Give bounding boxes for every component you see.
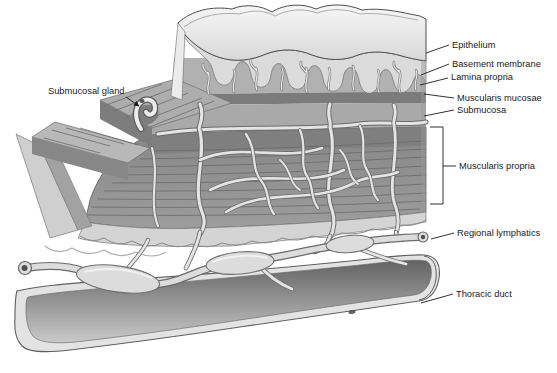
serosa-bumps: [45, 246, 166, 256]
anatomy-illustration: Submucosal gland Epithelium Basement mem…: [0, 0, 557, 373]
leader-epithelium: [426, 45, 449, 53]
label-thoracic-duct: Thoracic duct: [456, 289, 512, 299]
label-lamina-propria: Lamina propria: [451, 72, 514, 82]
label-regional-lymphatics: Regional lymphatics: [457, 228, 541, 238]
leader-muscularis-mucosae: [424, 94, 454, 98]
label-submucosal-gland: Submucosal gland: [48, 86, 125, 96]
leader-submucosa: [424, 110, 454, 116]
label-basement-membrane: Basement membrane: [452, 59, 541, 69]
lymph-trunk-lumen-right: [421, 235, 425, 239]
gland-opening: [139, 99, 144, 103]
label-muscularis-propria: Muscularis propria: [459, 161, 536, 171]
bracket-muscularis-propria: [430, 127, 456, 204]
label-submucosa: Submucosa: [457, 105, 507, 115]
figure-canvas: Submucosal gland Epithelium Basement mem…: [0, 0, 557, 373]
leader-regional-lymphatics: [431, 233, 454, 239]
lymph-trunk-lumen-left: [22, 265, 28, 271]
label-muscularis-mucosae: Muscularis mucosae: [457, 93, 542, 103]
label-epithelium: Epithelium: [452, 40, 496, 50]
